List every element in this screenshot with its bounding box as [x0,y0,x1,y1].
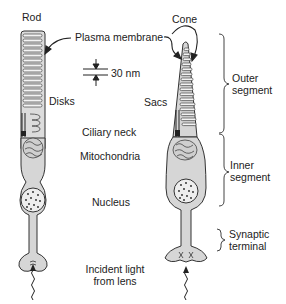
photoreceptor-diagram [0,0,286,304]
cone-cell [165,42,207,300]
rod-mitochondria [23,138,43,158]
synaptic-terminal-label: Synaptic terminal [229,228,269,252]
rod-incident-light-arrow [30,264,36,300]
plasma-membrane-label: Plasma membrane [75,31,163,43]
synaptic-terminal-line1: Synaptic [229,228,269,240]
scale-label: 30 nm [111,67,140,79]
cone-title: Cone [172,13,197,25]
incident-light-line1: Incident light [80,263,150,275]
cone-nucleus [174,179,198,203]
scale-bar-30nm [83,59,108,86]
outer-segment-line2: segment [232,84,272,96]
sacs-label: Sacs [144,96,167,108]
segment-braces [217,34,229,251]
mitochondria-label: Mitochondria [80,150,140,162]
cone-mitochondria [173,140,197,160]
outer-segment-label: Outer segment [232,72,272,96]
incident-light-line2: from lens [80,275,150,287]
ciliary-neck-label: Ciliary neck [82,126,136,138]
synaptic-terminal-line2: terminal [229,240,269,252]
inner-segment-line2: segment [230,171,270,183]
cone-incident-light-arrow [183,266,189,300]
rod-cell [19,31,47,300]
rod-disks [23,34,42,107]
nucleus-label: Nucleus [92,196,130,208]
outer-segment-line1: Outer [232,72,272,84]
inner-segment-label: Inner segment [230,159,270,183]
rod-title: Rod [22,11,41,23]
inner-segment-line1: Inner [230,159,270,171]
disks-label: Disks [49,95,75,107]
incident-light-label: Incident light from lens [80,263,150,287]
rod-nucleus [21,188,45,212]
